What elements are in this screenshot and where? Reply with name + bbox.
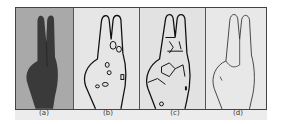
label-b: (b) bbox=[103, 109, 113, 117]
label-d: (d) bbox=[233, 109, 243, 117]
hand-contour-icon bbox=[74, 8, 139, 109]
hand-figure bbox=[15, 7, 267, 110]
hand-outline-icon bbox=[206, 8, 266, 109]
caption-bar bbox=[15, 110, 267, 120]
label-a: (a) bbox=[39, 109, 49, 117]
panel-a-image bbox=[16, 8, 74, 109]
panel-c-segmented bbox=[140, 8, 206, 109]
panel-b-contour bbox=[74, 8, 140, 109]
hand-segmented-icon bbox=[140, 8, 205, 109]
hand-photo-icon bbox=[16, 8, 73, 109]
label-c: (c) bbox=[170, 109, 179, 117]
panel-d-outline bbox=[206, 8, 266, 109]
